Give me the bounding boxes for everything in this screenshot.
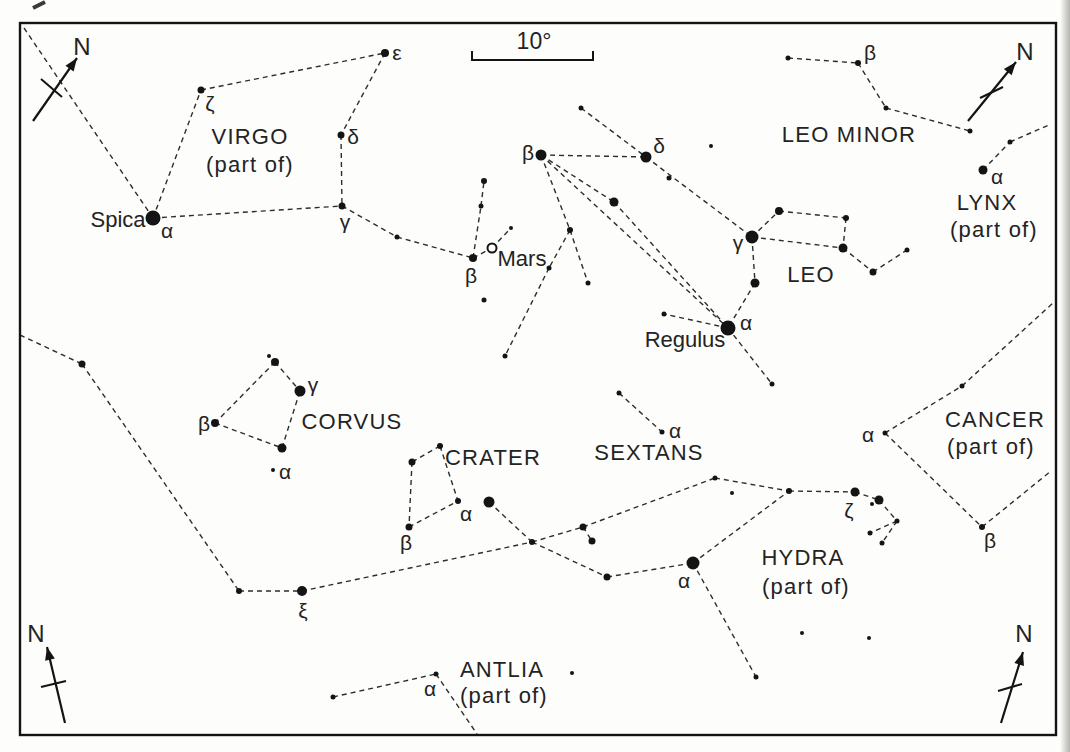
greek-letter-label: β	[400, 531, 412, 554]
north-arrow-head	[1014, 652, 1024, 666]
north-arrow-cross-tick	[980, 87, 1003, 98]
star	[271, 358, 279, 366]
constellation-line	[333, 674, 436, 697]
constellation-name-label: (part of)	[950, 217, 1038, 242]
constellation-line	[201, 53, 385, 90]
star	[662, 312, 667, 317]
constellation-line	[275, 362, 300, 391]
star	[481, 178, 487, 184]
star	[547, 266, 552, 271]
star	[855, 60, 861, 66]
star	[770, 382, 775, 387]
constellation-line	[752, 237, 843, 248]
star	[604, 574, 611, 581]
constellation-line	[982, 471, 1051, 527]
constellation-line	[1010, 124, 1051, 142]
star	[868, 531, 873, 536]
constellation-line	[646, 157, 752, 237]
constellation-line	[541, 155, 646, 157]
star	[870, 502, 874, 506]
constellation-line	[397, 237, 473, 258]
north-arrow-top-left: N	[33, 33, 91, 122]
star	[895, 519, 900, 524]
page-edge-shadow	[1060, 0, 1070, 752]
constellation-name-label: CRATER	[445, 445, 541, 470]
star-chart-canvas: VIRGO(part of)LEO MINORLYNX(part of)LEOC…	[0, 0, 1070, 752]
greek-letter-label: β	[864, 41, 876, 64]
greek-letter-label: β	[198, 412, 210, 435]
star	[267, 354, 271, 358]
star	[198, 87, 205, 94]
constellation-line	[302, 542, 532, 591]
constellation-line	[858, 63, 886, 108]
star	[469, 254, 477, 262]
star	[709, 144, 713, 148]
north-arrow-head	[65, 58, 77, 72]
constellation-line	[583, 478, 715, 527]
constellation-name-label: LEO MINOR	[782, 122, 916, 147]
constellation-line	[532, 527, 583, 542]
star	[746, 231, 759, 244]
scale-bar-label: 10°	[517, 28, 552, 54]
constellation-name-label: VIRGO	[212, 124, 289, 149]
constellation-line	[843, 248, 873, 272]
greek-letter-label: α	[991, 165, 1003, 188]
star	[1008, 140, 1013, 145]
star	[236, 588, 242, 594]
star	[484, 497, 495, 508]
constellation-name-label: CANCER	[945, 407, 1045, 432]
star	[851, 488, 860, 497]
constellation-name-label: SEXTANS	[594, 440, 703, 465]
constellation-line	[614, 202, 728, 328]
star	[979, 166, 988, 175]
constellation-line	[541, 155, 614, 202]
constellation-line	[619, 393, 662, 432]
star	[381, 49, 389, 57]
star	[570, 671, 574, 675]
constellation-line	[581, 108, 646, 157]
star	[905, 248, 910, 253]
map-frame	[20, 2, 1056, 735]
constellation-line	[532, 542, 607, 577]
greek-letter-label: α	[424, 677, 436, 700]
constellation-line	[409, 501, 458, 527]
greek-letter-label: β	[465, 264, 477, 287]
constellation-line	[789, 491, 855, 492]
star	[278, 444, 287, 453]
star	[875, 496, 884, 505]
star-name-label: Regulus	[645, 327, 726, 352]
constellation-line	[82, 364, 239, 591]
star	[641, 152, 652, 163]
star	[295, 386, 306, 397]
constellation-name-label: HYDRA	[761, 545, 844, 570]
star	[730, 491, 734, 495]
north-arrow-cross-tick	[998, 684, 1022, 691]
constellation-name-label: LEO	[787, 262, 835, 287]
constellation-line	[882, 521, 897, 543]
star	[580, 524, 587, 531]
north-arrow-top-right: N	[968, 38, 1034, 122]
north-label: N	[1015, 620, 1032, 647]
greek-letter-label: ζ	[205, 92, 214, 115]
constellation-name-label: (part of)	[460, 683, 548, 708]
constellation-line	[541, 155, 728, 328]
star	[146, 211, 161, 226]
star	[880, 541, 885, 546]
greek-letter-label: β	[522, 141, 534, 164]
star	[395, 235, 400, 240]
constellation-line	[549, 230, 570, 268]
greek-letter-label: δ	[653, 134, 665, 157]
constellation-line	[341, 135, 342, 206]
star	[406, 524, 413, 531]
constellation-line	[489, 502, 532, 542]
star	[503, 354, 508, 359]
star	[536, 150, 547, 161]
star	[867, 636, 871, 640]
print-artifact-mark	[33, 2, 45, 8]
constellation-line	[473, 206, 481, 258]
constellation-line	[153, 90, 201, 218]
greek-letter-label: α	[678, 569, 690, 592]
star	[660, 430, 665, 435]
greek-letter-label: α	[740, 311, 752, 334]
greek-letter-label: ξ	[298, 599, 307, 622]
